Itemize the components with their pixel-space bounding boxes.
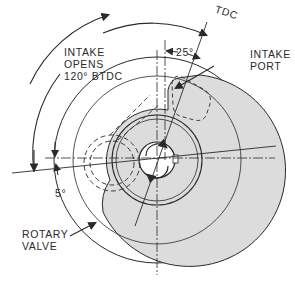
angle-25-label: 25° — [176, 46, 194, 58]
rotary-valve-label: ROTARY VALVE — [22, 228, 68, 252]
dim-5-arrow-bottom — [56, 165, 58, 175]
intake-port-label: INTAKE PORT — [250, 48, 291, 72]
rotary-valve-line-1: ROTARY — [22, 228, 68, 240]
intake-port-line-2: PORT — [250, 60, 291, 72]
rotary-valve-line-2: VALVE — [22, 240, 68, 252]
rotary-valve-leader-arrow — [70, 223, 95, 236]
rotary-valve-disc — [102, 75, 285, 266]
rotary-valve-diagram: TDC 25° INTAKE OPENS 120° BTDC INTAKE PO… — [0, 0, 295, 281]
intake-opens-label: INTAKE OPENS 120° BTDC — [64, 46, 123, 82]
intake-opens-line-2: OPENS — [64, 58, 123, 70]
angle-5-label: 5° — [55, 187, 66, 199]
intake-opens-line-3: 120° BTDC — [64, 70, 123, 82]
intake-opens-arc-lower — [33, 74, 60, 172]
tdc-arc-arrow-icon — [103, 23, 206, 35]
intake-port-line-1: INTAKE — [250, 48, 291, 60]
intake-opens-line-1: INTAKE — [64, 46, 123, 58]
